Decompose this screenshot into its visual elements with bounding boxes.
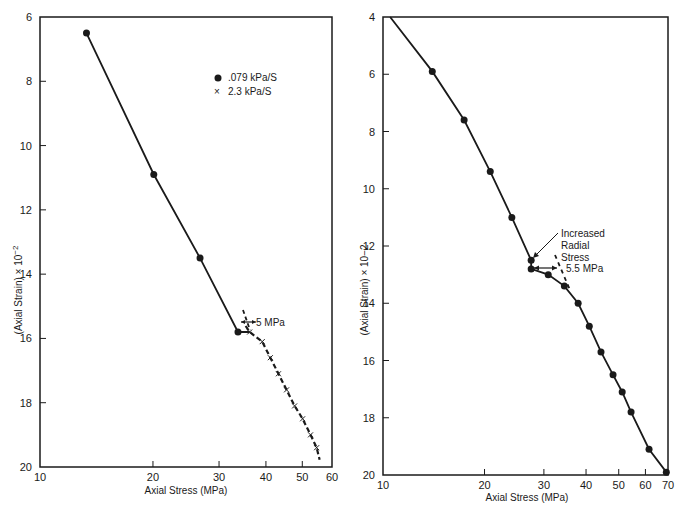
right-y-axis-title: (Axial Strain) × 10−2 — [359, 244, 370, 336]
svg-text:5.5 MPa: 5.5 MPa — [566, 263, 604, 274]
x-tick-label: 70 — [662, 479, 674, 491]
data-point-dot — [234, 329, 241, 336]
data-point-dot — [575, 300, 582, 307]
y-tick-label: 12 — [20, 204, 32, 216]
y-tick-label: 20 — [363, 469, 375, 481]
left-y-axis-title: (Axial Strain) × 10−2 — [11, 245, 24, 334]
data-point-dot — [508, 214, 515, 221]
left-annotation-5mpa: 5 MPa — [241, 310, 285, 330]
data-point-dot — [663, 469, 670, 476]
y-tick-label: 20 — [20, 461, 32, 473]
series-line — [246, 326, 320, 460]
data-point-dot — [528, 257, 535, 264]
data-point-dot — [429, 68, 436, 75]
x-tick-label: 30 — [538, 479, 550, 491]
data-point-dot — [619, 388, 626, 395]
legend-dot-marker-icon — [215, 75, 222, 82]
svg-text:Stress: Stress — [561, 252, 589, 263]
right-series — [390, 17, 670, 476]
left-series — [83, 30, 320, 460]
x-tick-label: 10 — [34, 471, 46, 483]
y-tick-label: 4 — [369, 11, 375, 23]
svg-text:5 MPa: 5 MPa — [256, 317, 285, 328]
left-chart: 68101214161820 102030405060 Axial Stress… — [11, 11, 338, 496]
x-tick-label: 10 — [377, 479, 389, 491]
data-point-dot — [197, 255, 204, 262]
left-x-axis-ticks: 102030405060 — [34, 461, 338, 483]
data-point-dot — [586, 323, 593, 330]
x-tick-label: 50 — [613, 479, 625, 491]
data-point-dot — [545, 271, 552, 278]
legend-entry-slow: .079 kPa/S — [228, 72, 277, 83]
right-annotation-radial-stress: Increased Radial Stress — [533, 228, 605, 263]
y-tick-label: 18 — [20, 397, 32, 409]
y-tick-label: 6 — [26, 11, 32, 23]
data-point-dot — [561, 283, 568, 290]
series-line — [86, 33, 249, 332]
right-x-axis-ticks: 10203040506070 — [377, 469, 674, 491]
data-point-dot — [83, 30, 90, 37]
x-tick-label: 40 — [260, 471, 272, 483]
y-tick-label: 8 — [369, 126, 375, 138]
x-tick-label: 20 — [147, 471, 159, 483]
left-legend: .079 kPa/S × 2.3 kPa/S — [214, 72, 277, 97]
x-tick-label: 50 — [296, 471, 308, 483]
x-tick-label: 20 — [478, 479, 490, 491]
x-tick-label: 30 — [213, 471, 225, 483]
data-point-dot — [597, 348, 604, 355]
data-point-dot — [487, 168, 494, 175]
data-point-dot — [461, 117, 468, 124]
data-point-dot — [150, 171, 157, 178]
x-tick-label: 60 — [639, 479, 651, 491]
data-point-dot — [610, 371, 617, 378]
legend-x-marker-icon: × — [214, 86, 220, 97]
data-point-dot — [646, 446, 653, 453]
y-tick-label: 6 — [369, 68, 375, 80]
y-tick-label: 10 — [20, 140, 32, 152]
svg-text:Radial: Radial — [561, 240, 589, 251]
left-plot-frame — [40, 17, 332, 467]
y-tick-label: 8 — [26, 75, 32, 87]
right-chart: 468101214161820 10203040506070 Axial Str… — [359, 11, 674, 503]
series-line — [390, 17, 666, 472]
data-point-dot — [628, 409, 635, 416]
figure: 68101214161820 102030405060 Axial Stress… — [0, 0, 684, 516]
y-tick-label: 16 — [363, 355, 375, 367]
x-tick-label: 60 — [326, 471, 338, 483]
y-tick-label: 10 — [363, 183, 375, 195]
left-y-axis-ticks: 68101214161820 — [20, 11, 46, 473]
data-point-dot — [528, 265, 535, 272]
y-tick-label: 18 — [363, 412, 375, 424]
x-tick-label: 40 — [580, 479, 592, 491]
right-x-axis-title: Axial Stress (MPa) — [486, 492, 569, 503]
legend-entry-fast: 2.3 kPa/S — [228, 86, 272, 97]
svg-text:Increased: Increased — [561, 228, 605, 239]
left-x-axis-title: Axial Stress (MPa) — [145, 485, 228, 496]
